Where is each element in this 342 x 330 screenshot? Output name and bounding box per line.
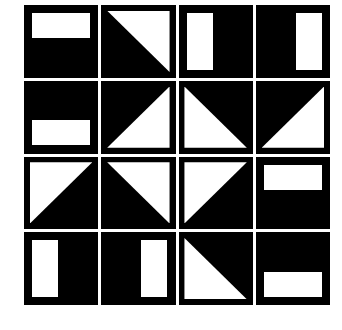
tile-r1c3	[179, 5, 253, 78]
rectangle-shape	[32, 240, 58, 297]
triangle-shape	[262, 87, 324, 148]
triangle-shape	[30, 162, 92, 223]
pattern-figure	[0, 0, 342, 330]
triangle-shape	[184, 162, 246, 223]
triangle-shape	[184, 87, 246, 148]
tile-r1c2	[101, 5, 175, 78]
tile-r1c1	[24, 5, 98, 78]
rectangle-shape	[187, 13, 213, 70]
tile-r4c4	[256, 232, 330, 305]
rectangle-shape	[32, 13, 90, 38]
pattern-grid	[24, 5, 330, 305]
triangle-shape	[107, 87, 169, 148]
tile-r3c4	[256, 157, 330, 230]
triangle-shape	[184, 238, 246, 299]
rectangle-shape	[264, 165, 322, 190]
rectangle-shape	[32, 120, 90, 145]
tile-r4c2	[101, 232, 175, 305]
tile-r2c3	[179, 81, 253, 154]
tile-r1c4	[256, 5, 330, 78]
rectangle-shape	[296, 13, 322, 70]
rectangle-shape	[264, 272, 322, 297]
triangle-shape	[107, 162, 169, 223]
tile-r3c3	[179, 157, 253, 230]
triangle-shape	[107, 11, 169, 72]
tile-r4c3	[179, 232, 253, 305]
tile-r2c2	[101, 81, 175, 154]
tile-r2c1	[24, 81, 98, 154]
tile-r2c4	[256, 81, 330, 154]
tile-r3c1	[24, 157, 98, 230]
rectangle-shape	[141, 240, 167, 297]
tile-r4c1	[24, 232, 98, 305]
tile-r3c2	[101, 157, 175, 230]
